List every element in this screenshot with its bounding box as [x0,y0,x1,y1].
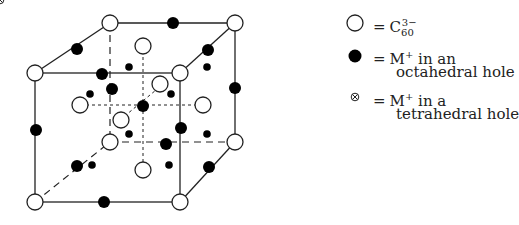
c60-label: C [390,18,401,36]
crossed-circle-icon [350,92,360,102]
tetrahedral-label: tetrahedral hole [396,106,519,123]
open-circle-icon [345,13,365,33]
octahedral-label: octahedral hole [396,64,515,81]
legend-tetrahedral: =M+ in a tetrahedral hole [300,88,505,124]
c60-anions [27,15,243,210]
unit-cell-diagram [0,0,260,225]
legend-octahedral: =M+ in an octahedral hole [300,46,505,82]
tetrahedral-ions [0,0,4,4]
legend-c60: =C603− [300,12,505,34]
filled-circle-icon [347,48,363,64]
